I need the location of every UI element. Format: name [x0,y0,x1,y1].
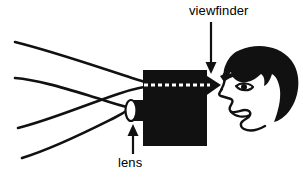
ray-1 [15,42,160,85]
ray-4 [22,108,131,158]
person-head [219,46,298,131]
lens-arrow [128,124,139,154]
eye [236,83,253,90]
camera-body [143,70,207,146]
diagram-artwork [0,0,303,180]
viewfinder-label: viewfinder [189,3,249,18]
ray-2 [15,78,131,108]
camera-diagram: viewfinder lens [0,0,303,180]
lens-label: lens [118,155,142,170]
viewfinder-arrow [206,22,217,74]
